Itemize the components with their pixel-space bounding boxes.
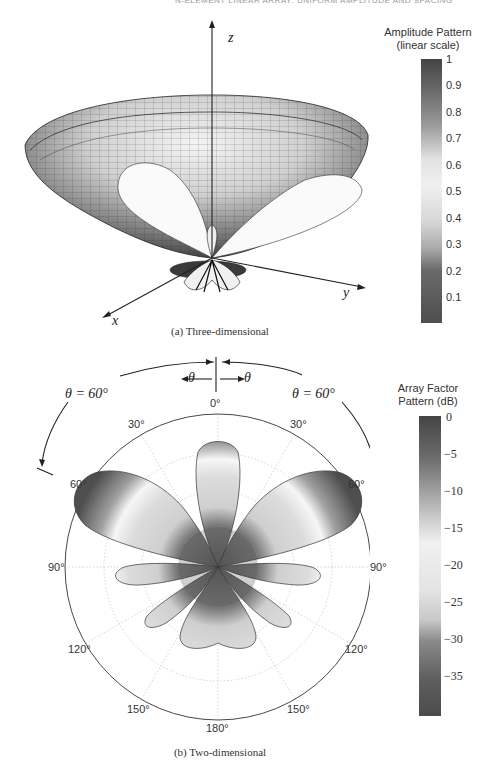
angle-label-right-60: 60°	[348, 478, 365, 490]
cb2-tick: −35	[444, 669, 463, 684]
cb1-tick: 0.4	[446, 212, 461, 224]
minor-lobes	[170, 260, 246, 292]
angle-label-right-90: 90°	[370, 561, 387, 573]
angle-label-left-150: 150°	[127, 703, 150, 715]
colorbar-title-line1: Amplitude Pattern	[372, 26, 484, 39]
angle-label-left-30: 30°	[128, 418, 145, 430]
cb2-tick: −15	[444, 521, 463, 536]
theta-arrow-right-label: θ	[244, 370, 251, 386]
cb2-tick: −5	[444, 447, 457, 462]
cb1-tick: 1	[446, 53, 452, 65]
inner-dark-region	[178, 527, 258, 607]
cb2-tick: −25	[444, 595, 463, 610]
angle-label-left-90: 90°	[48, 561, 65, 573]
z-axis-label: z	[228, 30, 233, 46]
caption-2d: (b) Two-dimensional	[120, 746, 320, 758]
theta-arrow-left-label: θ	[188, 370, 195, 386]
cb1-tick: 0.2	[446, 265, 461, 277]
colorbar-db-title: Array Factor Pattern (dB)	[372, 382, 484, 408]
cb1-tick: 0.3	[446, 238, 461, 250]
colorbar-title-line1: Array Factor	[372, 382, 484, 395]
theta-60-left-label: θ = 60°	[65, 386, 108, 402]
cb2-tick: 0	[446, 410, 452, 425]
polar-plot	[0, 340, 370, 766]
angle-label-right-30: 30°	[290, 418, 307, 430]
angle-label-left-120: 120°	[68, 643, 91, 655]
cb1-tick: 0.8	[446, 106, 461, 118]
angle-label-right-120: 120°	[345, 643, 368, 655]
x-axis-label: x	[112, 313, 118, 329]
cb1-tick: 0.5	[446, 185, 461, 197]
angle-label-right-150: 150°	[287, 703, 310, 715]
colorbar-db	[419, 416, 441, 716]
colorbar-title-line2: (linear scale)	[372, 39, 484, 52]
colorbar-amplitude-title: Amplitude Pattern (linear scale)	[372, 26, 484, 52]
cb2-tick: −20	[444, 558, 463, 573]
y-axis-label: y	[343, 285, 349, 301]
colorbar-title-line2: Pattern (dB)	[372, 395, 484, 408]
cb2-tick: −10	[444, 484, 463, 499]
angle-label-0: 0°	[210, 397, 221, 409]
caption-3d: (a) Three-dimensional	[120, 325, 320, 337]
angle-label-left-60: 60°	[70, 478, 87, 490]
cb1-tick: 0.6	[446, 159, 461, 171]
surface-3d-plot	[0, 0, 370, 345]
cb1-tick: 0.1	[446, 291, 461, 303]
angle-label-180: 180°	[206, 722, 229, 734]
theta-60-right-label: θ = 60°	[292, 386, 335, 402]
cb2-tick: −30	[444, 632, 463, 647]
cb1-tick: 0.7	[446, 132, 461, 144]
cb1-tick: 0.9	[446, 79, 461, 91]
colorbar-amplitude	[421, 59, 442, 323]
